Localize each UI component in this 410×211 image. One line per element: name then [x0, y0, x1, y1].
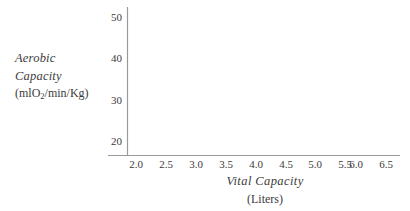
x-axis-title-name: Vital Capacity: [185, 172, 345, 190]
y-axis-unit-prefix: (mlO: [15, 86, 40, 100]
x-axis-unit-label: (Liters): [185, 190, 345, 208]
x-tick-label-6-5: 6.5: [366, 158, 406, 170]
y-axis-title-line2: Capacity: [15, 68, 123, 86]
plot-area: [128, 7, 400, 155]
y-axis-unit-suffix: /min/Kg): [45, 86, 89, 100]
y-axis-title-line1: Aerobic: [15, 50, 123, 68]
y-axis-unit-label: (mlO2/min/Kg): [15, 85, 123, 105]
y-axis-title: Aerobic Capacity (mlO2/min/Kg): [15, 50, 123, 105]
x-axis-title: Vital Capacity (Liters): [185, 172, 345, 208]
y-tick-label-20: 20: [96, 135, 122, 147]
scatter-plot-figure: 50 40 30 20 2.0 2.5 3.0 3.5 4.0 4.5 5.0 …: [0, 0, 410, 211]
y-tick-label-50: 50: [96, 11, 122, 23]
